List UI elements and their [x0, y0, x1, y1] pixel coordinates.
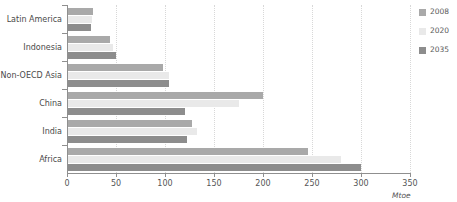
x-axis-tick	[410, 173, 411, 177]
legend-label: 2008	[430, 8, 449, 16]
legend-label: 2035	[430, 46, 449, 54]
bar	[67, 92, 263, 99]
legend: 200820202035	[419, 4, 457, 61]
x-axis-tick	[361, 173, 362, 177]
bar	[67, 156, 341, 163]
x-axis-tick	[165, 173, 166, 177]
x-axis-line	[67, 173, 411, 174]
bar-chart: Latin AmericaIndonesiaNon-OECD AsiaChina…	[0, 0, 457, 202]
bar	[67, 44, 113, 51]
gridline	[361, 5, 362, 173]
y-axis-category-label: Non-OECD Asia	[0, 71, 62, 80]
x-axis-tick	[67, 173, 68, 177]
y-axis-category-label: India	[0, 127, 62, 136]
x-axis-tick-label: 50	[111, 179, 121, 188]
legend-swatch-icon	[419, 47, 426, 54]
y-axis-category-label: Africa	[0, 155, 62, 164]
y-axis-category-label: Indonesia	[0, 43, 62, 52]
y-axis-line	[67, 5, 68, 173]
y-axis-category-label: China	[0, 99, 62, 108]
x-axis-tick-label: 200	[255, 179, 270, 188]
y-axis-tick	[62, 89, 67, 90]
bar	[67, 148, 308, 155]
y-axis-tick	[62, 33, 67, 34]
y-axis-tick	[62, 5, 67, 6]
bar	[67, 52, 116, 59]
x-axis-unit-label: Mtoe	[392, 191, 411, 200]
gridline	[312, 5, 313, 173]
plot-area	[67, 5, 410, 173]
x-axis-tick	[116, 173, 117, 177]
bar	[67, 136, 187, 143]
x-axis-tick	[312, 173, 313, 177]
y-axis-tick	[62, 61, 67, 62]
bar	[67, 64, 163, 71]
x-axis-tick-label: 0	[64, 179, 69, 188]
x-axis-tick-label: 100	[157, 179, 172, 188]
bar	[67, 80, 169, 87]
gridline	[410, 5, 411, 173]
bar	[67, 108, 185, 115]
x-axis-tick	[263, 173, 264, 177]
x-axis-tick-label: 150	[206, 179, 221, 188]
legend-label: 2020	[430, 27, 449, 35]
legend-swatch-icon	[419, 28, 426, 35]
bar	[67, 36, 110, 43]
y-axis-tick	[62, 145, 67, 146]
legend-item[interactable]: 2020	[419, 23, 457, 39]
bar	[67, 164, 361, 171]
legend-item[interactable]: 2008	[419, 4, 457, 20]
x-axis-tick-label: 300	[353, 179, 368, 188]
y-axis-category-label: Latin America	[0, 15, 62, 24]
bar	[67, 72, 169, 79]
bar	[67, 128, 197, 135]
legend-swatch-icon	[419, 9, 426, 16]
x-axis-tick-label: 250	[304, 179, 319, 188]
bar	[67, 16, 92, 23]
x-axis-tick	[214, 173, 215, 177]
x-axis-tick-label: 350	[402, 179, 417, 188]
bar	[67, 100, 239, 107]
bar	[67, 120, 192, 127]
legend-item[interactable]: 2035	[419, 42, 457, 58]
bar	[67, 24, 91, 31]
y-axis-tick	[62, 117, 67, 118]
bar	[67, 8, 93, 15]
